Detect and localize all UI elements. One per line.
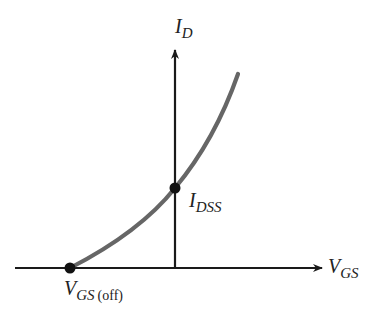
x-axis-label: VGS bbox=[328, 255, 359, 281]
transfer-curve-diagram: ID IDSS VGS VGS(off) bbox=[0, 0, 368, 311]
idss-label: IDSS bbox=[188, 189, 222, 215]
vgs-off-point bbox=[65, 263, 76, 274]
y-axis-label: ID bbox=[174, 15, 193, 41]
transfer-curve bbox=[70, 74, 238, 268]
idss-point bbox=[170, 183, 181, 194]
vgs-off-label: VGS(off) bbox=[64, 277, 123, 304]
